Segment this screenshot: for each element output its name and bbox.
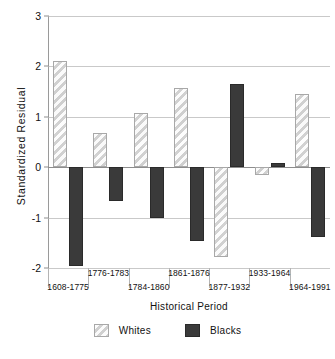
bar-whites-1776-1783 [93,133,107,167]
chart-legend: WhitesBlacks [0,324,335,337]
bar-whites-1933-1964 [255,167,269,175]
bar-blacks-1861-1876 [190,167,204,241]
legend-entry-blacks: Blacks [185,324,241,337]
gridline-1 [48,117,330,118]
y-axis-title: Standardized Residual [15,61,27,231]
x-tick-label-1964-1991: 1964-1991 [289,282,331,292]
gridline-2 [48,66,330,67]
y-tick-mark [44,16,49,17]
bar-blacks-1964-1991 [311,167,325,237]
gridline-3 [48,16,330,17]
plot-area: 3210-1-2 [48,16,330,268]
gridline-neg1 [48,218,330,219]
y-tick-mark [44,66,49,67]
gridline-0 [48,167,330,168]
bar-whites-1608-1775 [53,61,67,167]
y-tick-label: 3 [35,10,41,22]
x-axis-tick-labels: 1608-17751776-17831784-18601861-18761877… [48,268,330,302]
bar-blacks-1877-1932 [230,84,244,168]
x-tick-label-1776-1783: 1776-1783 [88,268,130,278]
bar-chart-figure: Standardized Residual 3210-1-2 1608-1775… [0,0,335,359]
bar-blacks-1933-1964 [271,163,285,167]
bar-whites-1877-1932 [214,167,228,257]
legend-label: Blacks [210,325,241,336]
x-axis-title: Historical Period [48,301,330,312]
y-tick-label: 0 [35,161,41,173]
bar-blacks-1784-1860 [150,167,164,217]
x-tick-label-1784-1860: 1784-1860 [128,282,170,292]
x-tick-label-1608-1775: 1608-1775 [47,282,89,292]
blacks-swatch-icon [185,324,200,337]
y-tick-mark [44,217,49,218]
bar-blacks-1776-1783 [109,167,123,201]
x-tick-label-1933-1964: 1933-1964 [249,268,291,278]
y-tick-label: 2 [35,60,41,72]
y-tick-mark [44,116,49,117]
y-tick-label: 1 [35,111,41,123]
bar-whites-1861-1876 [174,88,188,167]
bar-blacks-1608-1775 [69,167,83,266]
x-tick-label-1861-1876: 1861-1876 [168,268,210,278]
legend-label: Whites [119,325,151,336]
whites-swatch-icon [94,324,109,337]
bar-whites-1784-1860 [134,113,148,167]
y-axis-line [48,16,49,268]
y-tick-label: -1 [32,212,41,224]
y-tick-mark [44,167,49,168]
y-tick-label: -2 [32,262,41,274]
bar-whites-1964-1991 [295,94,309,168]
x-tick-label-1877-1932: 1877-1932 [209,282,251,292]
legend-entry-whites: Whites [94,324,151,337]
